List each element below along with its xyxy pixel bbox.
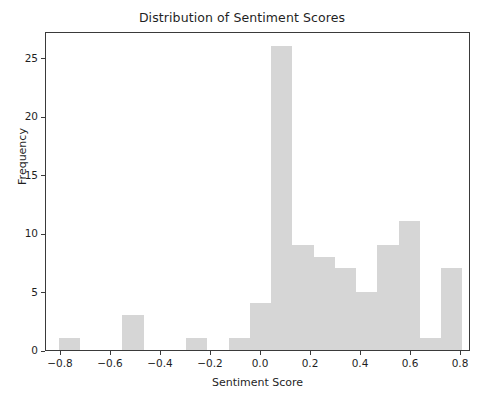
histogram-bar [122, 315, 143, 350]
bars-layer [46, 33, 469, 350]
histogram-bar [271, 46, 292, 350]
x-axis-tick-label: −0.6 [85, 357, 135, 369]
histogram-bar [399, 221, 420, 350]
histogram-bar [59, 338, 80, 350]
y-axis-tick [41, 175, 45, 176]
y-axis-tick [41, 351, 45, 352]
x-axis-tick [260, 351, 261, 355]
page-title: Distribution of Sentiment Scores [0, 10, 484, 25]
x-axis-tick-label: 0.2 [285, 357, 335, 369]
y-axis-tick [41, 117, 45, 118]
x-axis-tick-label: −0.2 [185, 357, 235, 369]
x-axis-tick [460, 351, 461, 355]
histogram-bar [441, 268, 462, 350]
x-axis-label: Sentiment Score [45, 376, 470, 389]
y-axis-tick [41, 58, 45, 59]
y-axis-tick [41, 292, 45, 293]
histogram-bar [292, 245, 313, 350]
histogram-bar [186, 338, 207, 350]
histogram-bar [314, 257, 335, 350]
x-axis-tick-label: 0.0 [235, 357, 285, 369]
histogram-bar [356, 292, 377, 350]
x-axis-tick-label: 0.6 [385, 357, 435, 369]
x-axis-tick-label: −0.4 [135, 357, 185, 369]
y-axis-tick-label: 5 [0, 286, 38, 298]
x-axis-tick [360, 351, 361, 355]
histogram-bar [335, 268, 356, 350]
histogram-bar [420, 338, 441, 350]
y-axis-tick-label: 10 [0, 227, 38, 239]
x-axis-tick [210, 351, 211, 355]
plot-area [45, 32, 470, 351]
y-axis-label: Frequency [16, 87, 29, 227]
y-axis-tick-label: 0 [0, 344, 38, 356]
histogram-bar [250, 303, 271, 350]
x-axis-tick-label: 0.4 [335, 357, 385, 369]
x-axis-tick [410, 351, 411, 355]
x-axis-tick-label: −0.8 [35, 357, 85, 369]
x-axis-tick [310, 351, 311, 355]
x-axis-tick-label: 0.8 [435, 357, 484, 369]
x-axis-tick [110, 351, 111, 355]
y-axis-tick [41, 234, 45, 235]
histogram-figure: Distribution of Sentiment Scores 0510152… [0, 0, 484, 404]
histogram-bar [229, 338, 250, 350]
y-axis-tick-label: 25 [0, 52, 38, 64]
x-axis-tick [160, 351, 161, 355]
x-axis-tick [60, 351, 61, 355]
histogram-bar [377, 245, 398, 350]
